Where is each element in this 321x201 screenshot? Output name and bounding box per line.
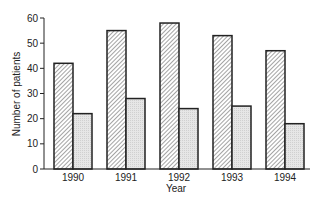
bar-1990-series-1 [54,63,73,169]
bar-1993-series-1 [213,36,232,169]
y-tick-label: 10 [27,138,39,149]
bars-group [54,23,304,169]
bar-1994-series-1 [266,51,285,169]
y-axis-title: Number of patients [11,52,22,137]
x-tick-label: 1992 [168,172,191,183]
x-axis-title: Year [166,183,187,194]
y-tick-label: 40 [27,63,39,74]
bar-1992-series-2 [179,109,198,169]
x-tick-label: 1993 [221,172,244,183]
x-tick-label: 1994 [274,172,297,183]
bar-1991-series-2 [126,99,145,169]
bar-1993-series-2 [232,106,251,169]
y-tick-label: 30 [27,88,39,99]
y-tick-label: 0 [32,164,38,175]
bar-1990-series-2 [73,114,92,169]
y-tick-label: 60 [27,13,39,24]
bar-1994-series-2 [285,124,304,169]
bar-1991-series-1 [107,31,126,169]
bar-chart: 199019911992199319940102030405060 Number… [0,0,321,201]
bar-1992-series-1 [160,23,179,169]
x-tick-label: 1990 [62,172,85,183]
x-tick-label: 1991 [115,172,138,183]
y-tick-label: 20 [27,113,39,124]
y-tick-label: 50 [27,38,39,49]
